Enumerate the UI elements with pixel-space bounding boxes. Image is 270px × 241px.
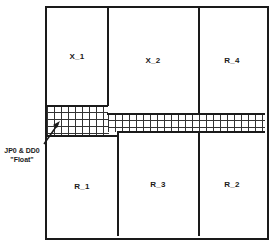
float-annotation-line1: JP0 & DD0 xyxy=(0,146,44,155)
float-annotation: JP0 & DD0 "Float" xyxy=(0,146,44,164)
arrow-icon xyxy=(0,0,270,241)
float-annotation-line2: "Float" xyxy=(0,155,44,164)
